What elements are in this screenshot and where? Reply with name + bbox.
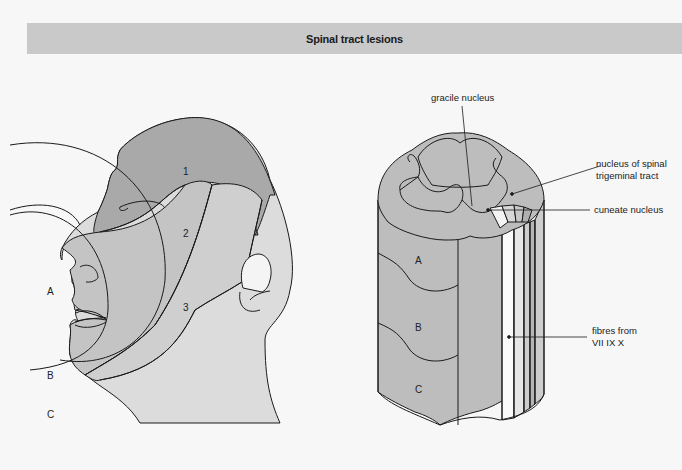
- segment-label-c: C: [415, 384, 422, 396]
- ring-c: [10, 205, 80, 225]
- cord-top: [378, 133, 544, 240]
- segment-label-a: A: [415, 255, 422, 267]
- fibres-label-line2: VII IX X: [592, 337, 624, 349]
- figure-canvas: [0, 0, 682, 470]
- zone-label-1: 1: [183, 166, 189, 178]
- zone-label-3: 3: [183, 302, 189, 314]
- cord-diagram: [378, 133, 544, 425]
- spinal-trigeminal-label-line2: trigeminal tract: [596, 170, 658, 182]
- ring-label-b: B: [47, 370, 54, 382]
- gracile-nucleus-label: gracile nucleus: [431, 92, 494, 104]
- ring-label-c: C: [47, 409, 54, 421]
- zone-label-2: 2: [183, 228, 189, 240]
- spinal-trigeminal-label-line1: nucleus of spinal: [596, 158, 667, 170]
- cuneate-nucleus-label: cuneate nucleus: [594, 204, 663, 216]
- ring-label-a: A: [47, 286, 54, 298]
- fibres-label-line1: fibres from: [592, 325, 637, 337]
- fibre-band-white: [502, 226, 514, 420]
- segment-label-b: B: [415, 322, 422, 334]
